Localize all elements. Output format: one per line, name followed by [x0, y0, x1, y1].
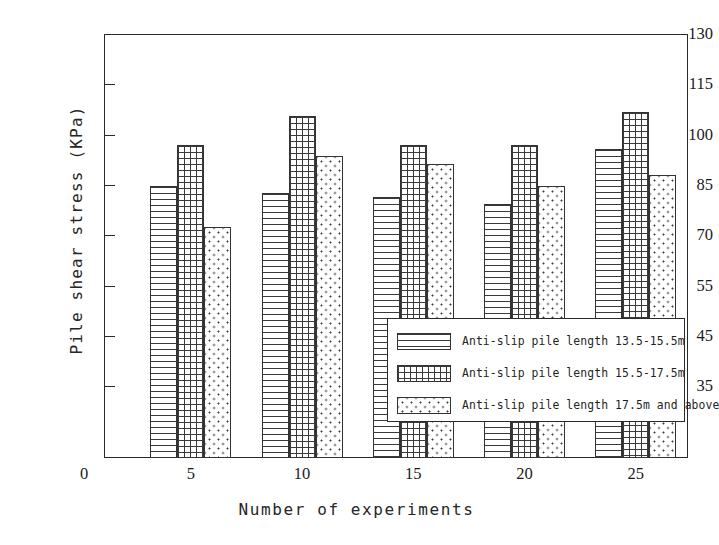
y-axis-tick — [104, 386, 115, 387]
bar — [177, 145, 204, 458]
legend-label: Anti-slip pile length 13.5-15.5m — [462, 334, 685, 348]
legend-item: Anti-slip pile length 13.5-15.5m — [388, 326, 684, 356]
y-axis-tick — [104, 135, 115, 136]
legend-label: Anti-slip pile length 15.5-17.5m — [462, 366, 685, 380]
legend: Anti-slip pile length 13.5-15.5m Anti-sl… — [387, 318, 685, 422]
x-axis-tick-label: 25 — [616, 464, 656, 484]
x-axis-tick-label: 15 — [393, 464, 433, 484]
y-axis-tick — [104, 286, 115, 287]
y-axis-tick — [104, 185, 115, 186]
bar — [262, 193, 289, 458]
legend-item: Anti-slip pile length 17.5m and above — [388, 390, 684, 420]
legend-label: Anti-slip pile length 17.5m and above — [462, 398, 719, 412]
y-axis-title-container: Pile shear stress (KPa) — [34, 0, 36, 460]
bar — [204, 227, 231, 458]
bar — [289, 116, 316, 458]
x-axis-tick-label: 10 — [282, 464, 322, 484]
legend-swatch-horizontal-lines-icon — [397, 333, 451, 350]
y-axis-tick-label: 130 — [617, 24, 713, 44]
y-axis-tick-label: 115 — [617, 74, 713, 94]
legend-item: Anti-slip pile length 15.5-17.5m — [388, 358, 684, 388]
legend-swatch-dots-icon — [397, 397, 451, 414]
y-axis-tick — [104, 34, 115, 35]
x-axis-tick-label: 20 — [504, 464, 544, 484]
x-axis-tick-label: 0 — [64, 464, 104, 484]
y-axis-tick — [104, 84, 115, 85]
bar — [150, 186, 177, 458]
y-axis-title: Pile shear stress (KPa) — [67, 90, 86, 370]
x-axis-title: Number of experiments — [0, 500, 713, 519]
y-axis-tick — [104, 235, 115, 236]
x-axis-tick-label: 5 — [171, 464, 211, 484]
legend-swatch-cross-hatch-icon — [397, 365, 451, 382]
y-axis-tick — [104, 336, 115, 337]
bar — [316, 156, 343, 458]
